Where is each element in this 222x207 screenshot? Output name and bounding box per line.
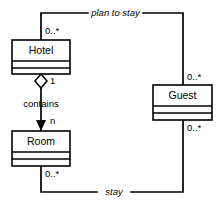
multiplicity-hotel-bottom: 1 <box>50 75 55 86</box>
hotel-class-name: Hotel <box>29 44 54 56</box>
multiplicity-guest-top: 0..* <box>187 71 202 82</box>
contains-label: contains <box>23 98 59 109</box>
aggregation-diamond <box>35 74 47 88</box>
multiplicity-room-bottom: 0..* <box>45 168 60 179</box>
guest-class-name: Guest <box>168 89 196 101</box>
plan-to-stay-label: plan to stay <box>90 7 141 18</box>
uml-class-diagram: plan to stay 0..* 0..* stay 0..* 0..* co… <box>0 0 222 207</box>
class-box-room[interactable]: Room <box>12 131 70 166</box>
stay-label: stay <box>105 186 124 197</box>
multiplicity-guest-bottom: 0..* <box>187 122 202 133</box>
room-class-name: Room <box>27 135 55 147</box>
relationship-contains[interactable]: contains 1 n <box>23 74 59 131</box>
class-box-guest[interactable]: Guest <box>153 85 212 120</box>
class-box-hotel[interactable]: Hotel <box>12 40 70 74</box>
multiplicity-hotel-top: 0..* <box>45 25 60 36</box>
diagram-canvas: plan to stay 0..* 0..* stay 0..* 0..* co… <box>0 0 222 207</box>
multiplicity-room-top: n <box>50 115 55 126</box>
stay-line-right <box>131 120 183 192</box>
plan-to-stay-line-right <box>143 13 183 85</box>
navigability-arrowhead <box>36 120 46 131</box>
